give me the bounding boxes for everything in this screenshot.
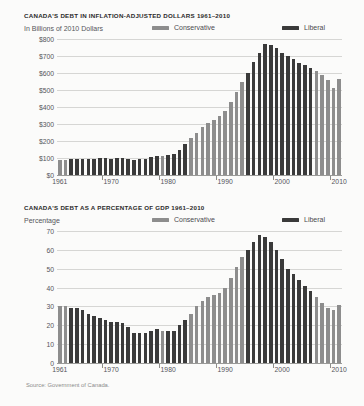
bar bbox=[223, 111, 227, 175]
bar bbox=[332, 310, 336, 363]
bar bbox=[183, 320, 187, 363]
x-axis-1: 196119701980199020002010 bbox=[57, 175, 342, 191]
bar bbox=[309, 291, 313, 363]
bar bbox=[166, 331, 170, 363]
bar bbox=[297, 63, 301, 175]
y-tick-label: $800 bbox=[39, 36, 54, 43]
bar bbox=[58, 160, 62, 175]
bar bbox=[235, 267, 239, 363]
y-tick-label: 40 bbox=[46, 284, 54, 291]
bar bbox=[132, 333, 136, 363]
bar bbox=[98, 318, 102, 363]
bar bbox=[315, 71, 319, 175]
x-tick-mark bbox=[216, 364, 217, 368]
x-tick-mark bbox=[273, 176, 274, 180]
chart-subheader-1: In Billions of 2010 Dollars Conservative… bbox=[24, 24, 342, 37]
x-tick-label: 1990 bbox=[218, 178, 233, 185]
legend-label-conservative: Conservative bbox=[174, 216, 215, 223]
bar bbox=[286, 269, 290, 363]
bar bbox=[303, 286, 307, 363]
bar bbox=[212, 295, 216, 363]
x-tick-mark bbox=[330, 364, 331, 368]
bar bbox=[275, 250, 279, 363]
bar bbox=[269, 242, 273, 363]
bar bbox=[309, 68, 313, 175]
bar bbox=[240, 82, 244, 175]
legend-label-liberal: Liberal bbox=[304, 216, 325, 223]
bar bbox=[81, 159, 85, 175]
bar bbox=[183, 144, 187, 175]
chart-panel-debt-gdp: CANADA'S DEBT AS A PERCENTAGE OF GDP 196… bbox=[24, 204, 342, 379]
bar bbox=[172, 331, 176, 363]
x-tick-label: 2010 bbox=[332, 178, 347, 185]
x-tick-label: 2000 bbox=[275, 178, 290, 185]
bar bbox=[149, 331, 153, 363]
bar bbox=[144, 159, 148, 175]
bar bbox=[155, 156, 159, 175]
x-axis-2: 196119701980199020002010 bbox=[57, 363, 342, 379]
bar bbox=[218, 293, 222, 363]
bar bbox=[189, 314, 193, 363]
bar bbox=[326, 80, 330, 175]
x-tick-mark bbox=[159, 176, 160, 180]
bar bbox=[104, 158, 108, 175]
bar bbox=[121, 158, 125, 175]
bar bbox=[126, 159, 130, 175]
y-tick-label: 30 bbox=[46, 303, 54, 310]
x-tick-label: 1980 bbox=[161, 366, 176, 373]
bar bbox=[138, 333, 142, 363]
chart-subheader-2: Percentage Conservative Liberal bbox=[24, 216, 342, 229]
y-tick-label: $500 bbox=[39, 87, 54, 94]
bar bbox=[326, 308, 330, 363]
bar bbox=[252, 242, 256, 363]
x-tick-label: 1961 bbox=[52, 366, 67, 373]
x-tick-label: 1961 bbox=[52, 178, 67, 185]
bar bbox=[286, 56, 290, 175]
x-tick-label: 2010 bbox=[332, 366, 347, 373]
bar bbox=[178, 150, 182, 175]
bar bbox=[115, 322, 119, 363]
y-tick-label: 10 bbox=[46, 341, 54, 348]
bar bbox=[269, 45, 273, 175]
bar bbox=[332, 88, 336, 175]
bar bbox=[81, 310, 85, 363]
y-tick-label: $700 bbox=[39, 53, 54, 60]
x-tick-mark bbox=[102, 176, 103, 180]
y-tick-label: 20 bbox=[46, 322, 54, 329]
y-tick-label: $300 bbox=[39, 121, 54, 128]
bar bbox=[149, 157, 153, 175]
bar bbox=[258, 235, 262, 363]
chart-title-2: CANADA'S DEBT AS A PERCENTAGE OF GDP 196… bbox=[24, 204, 342, 212]
bar bbox=[246, 250, 250, 363]
bar bbox=[303, 65, 307, 175]
chart-panel-debt-dollars: CANADA'S DEBT IN INFLATION-ADJUSTED DOLL… bbox=[24, 12, 342, 191]
bar bbox=[172, 154, 176, 175]
bar bbox=[275, 48, 279, 175]
x-tick-label: 2000 bbox=[275, 366, 290, 373]
bar bbox=[320, 303, 324, 363]
legend-label-liberal: Liberal bbox=[304, 24, 325, 31]
bar bbox=[315, 297, 319, 363]
bar bbox=[109, 322, 113, 363]
bar bbox=[195, 306, 199, 363]
bar bbox=[161, 331, 165, 363]
bar bbox=[98, 158, 102, 175]
bar bbox=[212, 120, 216, 175]
legend-swatch-liberal-icon bbox=[282, 218, 299, 222]
bar bbox=[263, 237, 267, 363]
legend-item-conservative-1: Conservative bbox=[152, 24, 215, 31]
plot-area-2: 706050403020100 bbox=[24, 231, 342, 363]
x-tick-mark bbox=[216, 176, 217, 180]
y-axis-labels-1: $800$700$600$500$400$300$200$100$0 bbox=[24, 39, 54, 175]
bar bbox=[75, 308, 79, 363]
y-tick-label: 70 bbox=[46, 228, 54, 235]
legend-swatch-liberal-icon bbox=[282, 26, 299, 30]
bar bbox=[320, 75, 324, 175]
bar-series-2 bbox=[57, 231, 342, 363]
bar bbox=[337, 305, 341, 363]
bar bbox=[229, 102, 233, 175]
legend-item-liberal-2: Liberal bbox=[282, 216, 325, 223]
chart-axis-subtitle-1: In Billions of 2010 Dollars bbox=[24, 25, 103, 32]
bar bbox=[206, 297, 210, 363]
bar bbox=[75, 159, 79, 175]
